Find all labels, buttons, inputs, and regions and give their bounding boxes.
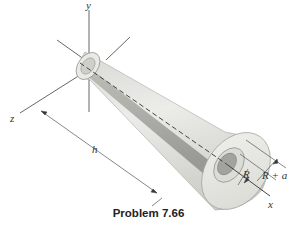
y-axis-label: y bbox=[85, 0, 91, 11]
z-axis-label: z bbox=[9, 112, 15, 124]
r-plus-a-label: R + a bbox=[261, 169, 288, 181]
z-axis-line bbox=[20, 75, 80, 113]
diagram-canvas: y z x h R R + a bbox=[0, 0, 297, 229]
figure-caption: Problem 7.66 bbox=[0, 207, 297, 219]
r-label: R bbox=[242, 168, 250, 180]
upper-right-axis-line bbox=[106, 37, 130, 60]
h-label: h bbox=[92, 143, 98, 155]
hollow-cone bbox=[71, 48, 284, 223]
h-extension-line bbox=[152, 198, 162, 206]
